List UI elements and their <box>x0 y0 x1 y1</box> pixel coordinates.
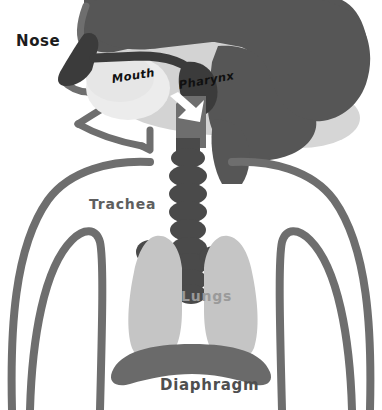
anatomy-illustration <box>0 0 382 410</box>
respiratory-system-diagram: Nose Mouth Pharynx Trachea Lungs Diaphra… <box>0 0 382 410</box>
